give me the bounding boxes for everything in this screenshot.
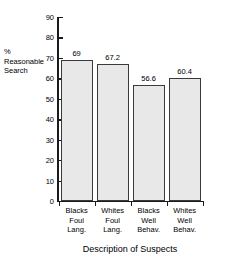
y-tick-label-90: 90 bbox=[36, 14, 54, 22]
y-tick-label-30: 30 bbox=[36, 137, 54, 145]
x-category-label-0-line-3: Lang. bbox=[61, 225, 93, 235]
y-tick-label-10: 10 bbox=[36, 178, 54, 186]
y-tick-label-50: 50 bbox=[36, 96, 54, 104]
x-category-label-1-line-3: Lang. bbox=[97, 225, 129, 235]
bar-value-blacks-foul-lang: 69 bbox=[61, 50, 93, 58]
x-axis-title: Description of Suspects bbox=[40, 244, 220, 255]
x-category-label-2-line-2: Well bbox=[133, 216, 165, 226]
x-category-label-2: Blacks Well Behav. bbox=[133, 206, 165, 235]
x-category-label-0: Blacks Foul Lang. bbox=[61, 206, 93, 235]
x-category-label-3-line-3: Behav. bbox=[169, 225, 201, 235]
y-tick-label-40: 40 bbox=[36, 116, 54, 124]
bar-blacks-well-behav bbox=[133, 85, 165, 201]
bar-whites-foul-lang bbox=[97, 64, 129, 201]
x-tick-mark-4 bbox=[203, 202, 204, 206]
x-category-label-1-line-1: Whites bbox=[97, 206, 129, 216]
x-category-label-1: Whites Foul Lang. bbox=[97, 206, 129, 235]
bar-value-whites-well-behav: 60.4 bbox=[169, 68, 201, 76]
bar-value-whites-foul-lang: 67.2 bbox=[97, 54, 129, 62]
x-category-label-3-line-2: Well bbox=[169, 216, 201, 226]
bar-whites-well-behav bbox=[169, 78, 201, 202]
y-tick-label-60: 60 bbox=[36, 75, 54, 83]
y-tick-label-20: 20 bbox=[36, 157, 54, 165]
bar-value-blacks-well-behav: 56.6 bbox=[133, 75, 165, 83]
x-category-label-2-line-1: Blacks bbox=[133, 206, 165, 216]
plot-area bbox=[59, 17, 204, 201]
y-tick-label-0: 0 bbox=[36, 198, 54, 206]
x-category-label-3-line-1: Whites bbox=[169, 206, 201, 216]
y-axis-title-line-3: Search bbox=[4, 66, 50, 76]
y-tick-label-70: 70 bbox=[36, 55, 54, 63]
bar-chart: % Reasonable Search 90 80 70 60 50 40 30… bbox=[0, 0, 230, 266]
bar-blacks-foul-lang bbox=[61, 60, 93, 201]
x-category-label-3: Whites Well Behav. bbox=[169, 206, 201, 235]
y-tick-label-80: 80 bbox=[36, 34, 54, 42]
x-category-label-0-line-2: Foul bbox=[61, 216, 93, 226]
x-category-label-2-line-3: Behav. bbox=[133, 225, 165, 235]
x-category-label-1-line-2: Foul bbox=[97, 216, 129, 226]
x-category-label-0-line-1: Blacks bbox=[61, 206, 93, 216]
